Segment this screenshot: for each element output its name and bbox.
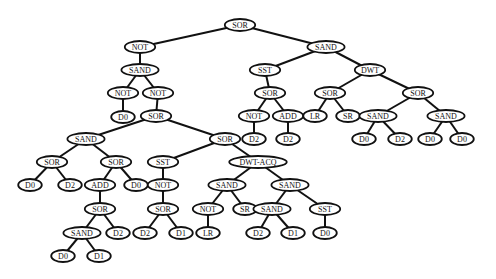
node-label: ADD xyxy=(91,181,109,190)
node-label: SOR xyxy=(108,158,124,167)
tree-svg: SORNOTSANDNOTD0NOTSORSANDSORD0D2SORADDD0… xyxy=(0,0,496,279)
node-label: D1 xyxy=(94,252,104,261)
tree-node-d1: D1 xyxy=(87,250,111,262)
node-label: D0 xyxy=(131,181,141,190)
tree-node-d2: D2 xyxy=(58,179,82,191)
node-label: D0 xyxy=(25,181,35,190)
node-label: SST xyxy=(318,205,332,214)
node-label: SOR xyxy=(322,89,338,98)
tree-node-d1: D1 xyxy=(169,227,193,239)
node-label: D2 xyxy=(283,135,293,144)
node-label: DWT-ACQ xyxy=(239,158,276,167)
tree-node-sst: SST xyxy=(148,156,178,168)
tree-node-sor: SOR xyxy=(85,203,115,215)
node-label: LR xyxy=(203,229,214,238)
tree-node-sst: SST xyxy=(250,64,280,76)
node-label: SAND xyxy=(75,135,97,144)
tree-node-d0: D0 xyxy=(418,133,442,145)
node-label: D2 xyxy=(113,229,123,238)
node-label: D0 xyxy=(118,113,128,122)
tree-node-d2: D2 xyxy=(276,133,300,145)
tree-node-d0: D0 xyxy=(352,133,376,145)
tree-node-d0: D0 xyxy=(124,179,148,191)
node-label: SOR xyxy=(217,135,233,144)
tree-node-d0: D0 xyxy=(111,111,135,123)
node-label: D2 xyxy=(65,181,75,190)
node-label: DWT xyxy=(361,66,379,75)
node-label: SAND xyxy=(129,66,151,75)
node-label: D0 xyxy=(320,229,330,238)
node-label: D0 xyxy=(425,135,435,144)
node-label: D0 xyxy=(58,252,68,261)
tree-diagram: SORNOTSANDNOTD0NOTSORSANDSORD0D2SORADDD0… xyxy=(0,0,496,279)
tree-node-sand: SAND xyxy=(359,110,396,122)
tree-node-sor: SOR xyxy=(101,156,131,168)
tree-node-not: NOT xyxy=(143,87,173,99)
node-label: SAND xyxy=(435,112,457,121)
node-label: LR xyxy=(310,112,321,121)
tree-node-sor: SOR xyxy=(315,87,345,99)
tree-node-sand: SAND xyxy=(121,64,158,76)
node-label: SOR xyxy=(44,158,60,167)
tree-node-sand: SAND xyxy=(427,110,464,122)
node-label: SAND xyxy=(261,205,283,214)
tree-edge xyxy=(140,25,240,47)
node-label: NOT xyxy=(150,89,167,98)
node-label: SAND xyxy=(216,181,238,190)
node-label: NOT xyxy=(246,112,263,121)
tree-node-sor: SOR xyxy=(210,133,240,145)
node-label: NOT xyxy=(155,181,172,190)
tree-node-dwt-acq: DWT-ACQ xyxy=(229,156,287,168)
node-label: NOT xyxy=(200,205,217,214)
node-label: SST xyxy=(258,66,272,75)
node-label: SOR xyxy=(155,205,171,214)
tree-node-sor: SOR xyxy=(148,203,178,215)
tree-node-d2: D2 xyxy=(242,133,266,145)
node-label: SOR xyxy=(148,112,164,121)
node-label: D2 xyxy=(395,135,405,144)
node-label: SAND xyxy=(71,229,93,238)
tree-node-sor: SOR xyxy=(255,87,285,99)
node-label: D0 xyxy=(359,135,369,144)
tree-node-lr: LR xyxy=(196,227,220,239)
node-label: SOR xyxy=(410,89,426,98)
node-label: D1 xyxy=(288,229,298,238)
tree-node-not: NOT xyxy=(108,87,138,99)
tree-node-sand: SAND xyxy=(271,179,308,191)
tree-node-sand: SAND xyxy=(67,133,104,145)
tree-node-d0: D0 xyxy=(313,227,337,239)
node-label: ADD xyxy=(279,112,297,121)
node-label: SAND xyxy=(315,43,337,52)
node-label: SST xyxy=(156,158,170,167)
node-label: SAND xyxy=(279,181,301,190)
node-label: NOT xyxy=(132,43,149,52)
tree-node-dwt: DWT xyxy=(355,64,385,76)
tree-node-lr: LR xyxy=(303,110,327,122)
node-label: SR xyxy=(343,112,353,121)
tree-node-d2: D2 xyxy=(388,133,412,145)
tree-node-not: NOT xyxy=(239,110,269,122)
tree-node-sor: SOR xyxy=(225,19,255,31)
node-label: NOT xyxy=(115,89,132,98)
tree-node-sand: SAND xyxy=(208,179,245,191)
node-label: SOR xyxy=(262,89,278,98)
tree-node-not: NOT xyxy=(148,179,178,191)
node-label: SAND xyxy=(367,112,389,121)
tree-node-sr: SR xyxy=(336,110,360,122)
node-label: D2 xyxy=(140,229,150,238)
tree-node-sor: SOR xyxy=(403,87,433,99)
node-label: SOR xyxy=(232,21,248,30)
tree-node-d0: D0 xyxy=(450,133,474,145)
node-label: D0 xyxy=(457,135,467,144)
tree-node-d2: D2 xyxy=(246,227,270,239)
tree-node-sand: SAND xyxy=(253,203,290,215)
tree-node-sor: SOR xyxy=(37,156,67,168)
node-label: D2 xyxy=(249,135,259,144)
tree-node-d2: D2 xyxy=(133,227,157,239)
tree-node-sst: SST xyxy=(310,203,340,215)
tree-node-add: ADD xyxy=(273,110,303,122)
node-label: SOR xyxy=(92,205,108,214)
tree-node-not: NOT xyxy=(125,41,155,53)
tree-node-sor: SOR xyxy=(141,110,171,122)
tree-node-d2: D2 xyxy=(106,227,130,239)
